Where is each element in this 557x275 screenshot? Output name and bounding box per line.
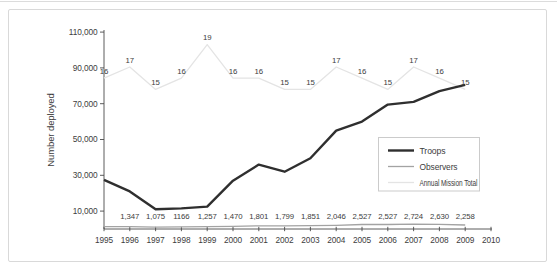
x-tick-label: 2001: [250, 235, 269, 245]
observers-data-label: 2,724: [404, 212, 424, 221]
annual-mission-total-data-label: 16: [229, 67, 237, 76]
x-tick-label: 2003: [301, 235, 320, 245]
annual-mission-total-data-label: 15: [151, 78, 160, 87]
annual-mission-total-data-label: 15: [280, 78, 289, 87]
legend-label-troops: Troops: [420, 146, 447, 156]
observers-data-label: 1,257: [198, 212, 217, 221]
observers-data-label: 1,075: [146, 212, 166, 221]
annual-mission-total-data-label: 17: [126, 56, 134, 65]
observers-data-label: 2,630: [430, 212, 450, 221]
x-tick-label: 1996: [121, 235, 140, 245]
annual-mission-total-data-label: 19: [203, 33, 211, 42]
annual-mission-total-data-label: 17: [409, 56, 417, 65]
observers-data-label: 1,801: [249, 212, 268, 221]
x-tick-label: 2010: [482, 235, 501, 245]
y-tick-label: 10,000: [73, 206, 98, 216]
x-tick-label: 1999: [198, 235, 217, 245]
x-tick-label: 2000: [224, 235, 243, 245]
x-tick-label: 2004: [327, 235, 346, 245]
annual-mission-total-data-label: 16: [177, 67, 185, 76]
annual-mission-total-data-label: 15: [384, 78, 393, 87]
x-tick-label: 1997: [147, 235, 166, 245]
annual-mission-total-data-label: 16: [435, 67, 443, 76]
legend-label-observers: Observers: [420, 162, 459, 172]
x-tick-label: 2009: [456, 235, 475, 245]
x-tick-label: 2002: [276, 235, 295, 245]
x-tick-label: 2005: [353, 235, 372, 245]
annual-mission-total-data-label: 17: [332, 56, 340, 65]
y-tick-label: 50,000: [73, 134, 98, 144]
x-tick-label: 2007: [405, 235, 424, 245]
observers-data-label: 1,799: [275, 212, 294, 221]
observers-data-label: 1,347: [120, 212, 139, 221]
observers-data-label: 1,470: [223, 212, 243, 221]
figure: 10,00030,00050,00070,00090,000110,000199…: [0, 0, 557, 275]
annual-mission-total-data-label: 15: [461, 78, 470, 87]
y-axis-title: Number deployed: [45, 93, 56, 167]
observers-data-label: 2,527: [352, 212, 371, 221]
annual-mission-total-data-label: 16: [255, 67, 263, 76]
y-tick-label: 70,000: [73, 99, 98, 109]
observers-data-label: 2,046: [327, 212, 346, 221]
observers-data-label: 1166: [173, 212, 189, 221]
observers-data-label: 2,258: [456, 212, 475, 221]
observers-data-label: 1,851: [301, 212, 320, 221]
legend-label-annual-mission-total: Annual Mission Total: [420, 178, 478, 188]
observers-data-label: 2,527: [378, 212, 397, 221]
annual-mission-total-data-label: 16: [100, 67, 108, 76]
y-tick-label: 110,000: [69, 27, 98, 37]
y-tick-label: 30,000: [73, 170, 98, 180]
x-tick-label: 2008: [430, 235, 449, 245]
x-tick-label: 1995: [95, 235, 114, 245]
annual-mission-total-data-label: 15: [306, 78, 315, 87]
x-tick-label: 1998: [172, 235, 191, 245]
observers-line: [104, 224, 465, 227]
annual-mission-total-data-label: 16: [358, 67, 366, 76]
y-tick-label: 90,000: [73, 63, 98, 73]
x-tick-label: 2006: [379, 235, 398, 245]
deployment-line-chart: 10,00030,00050,00070,00090,000110,000199…: [0, 0, 557, 275]
